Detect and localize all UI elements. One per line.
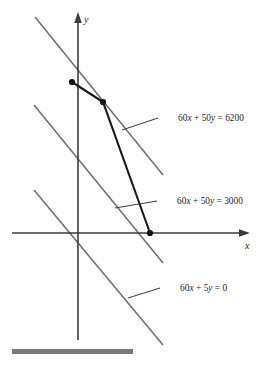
path-vertex-3 — [147, 230, 153, 236]
label-6200-rhs: 6200 — [225, 113, 244, 123]
feasible-path-polyline — [72, 82, 150, 233]
constraint-lines-group — [34, 17, 163, 345]
label-0-rhs: 0 — [222, 283, 227, 293]
svg-text:60x + 50y = 6200: 60x + 50y = 6200 — [157, 113, 260, 123]
leader-to-line-0 — [128, 288, 160, 298]
equation-label-3000: 60x + 50y = 3000 — [156, 196, 259, 206]
label-3000-coef-x: 60 — [177, 196, 187, 206]
leader-lines-group — [115, 118, 160, 298]
path-group — [69, 79, 153, 236]
label-3000-equals: = — [214, 196, 224, 206]
x-axis-arrowhead-icon — [239, 229, 250, 237]
y-axis-arrowhead-icon — [74, 12, 82, 23]
label-6200-coef-y: 50 — [202, 113, 212, 123]
y-axis-label: y — [83, 14, 89, 25]
leader-to-line-6200 — [122, 118, 158, 130]
leader-to-line-3000 — [115, 201, 157, 208]
label-0-equals: = — [212, 283, 222, 293]
label-0-plus: + — [194, 283, 204, 293]
svg-text:60x + 5y = 0: 60x + 5y = 0 — [159, 283, 244, 293]
constraint-line-3000 — [34, 105, 163, 263]
label-0-coef-x: 60 — [180, 283, 190, 293]
path-vertex-1 — [69, 79, 75, 85]
label-3000-plus: + — [191, 196, 201, 206]
constraint-line-6200 — [35, 17, 163, 175]
coordinate-plot: y x 60x + 50y = 6200 60x + 50y = 3000 60… — [0, 0, 265, 365]
figure-canvas: y x 60x + 50y = 6200 60x + 50y = 3000 60… — [0, 0, 265, 365]
path-vertex-2 — [100, 99, 106, 105]
label-6200-coef-x: 60 — [178, 113, 188, 123]
label-6200-equals: = — [215, 113, 225, 123]
svg-text:60x + 50y = 3000: 60x + 50y = 3000 — [156, 196, 259, 206]
label-3000-coef-y: 50 — [201, 196, 211, 206]
equation-label-0: 60x + 5y = 0 — [159, 283, 244, 293]
label-6200-plus: + — [192, 113, 202, 123]
label-3000-rhs: 3000 — [224, 196, 243, 206]
equation-label-6200: 60x + 50y = 6200 — [157, 113, 260, 123]
bottom-rule-bar — [12, 349, 133, 354]
x-axis-label: x — [244, 240, 250, 251]
